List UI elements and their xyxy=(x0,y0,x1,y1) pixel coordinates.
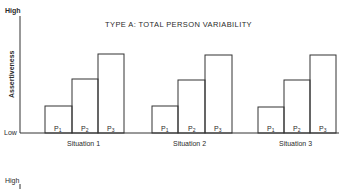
bar-label-s1-p3: P3 xyxy=(107,125,115,133)
bar-label-s1-p2: P2 xyxy=(81,125,89,133)
category-label-situation-2: Situation 2 xyxy=(173,140,206,147)
bar-s3-p3 xyxy=(310,55,336,133)
y-low-label: Low xyxy=(4,129,18,136)
bar-s1-p3 xyxy=(98,54,124,133)
y-axis-label: Assertiveness xyxy=(8,50,15,98)
bar-s2-p3 xyxy=(205,55,232,133)
bar-label-s3-p2: P2 xyxy=(293,125,301,133)
situation-1-group xyxy=(45,54,124,133)
chart: High Low Assertiveness TYPE A: TOTAL PER… xyxy=(0,0,339,189)
bar-label-s2-p2: P2 xyxy=(188,125,196,133)
bar-label-s1-p1: P1 xyxy=(54,125,62,133)
situation-3-group xyxy=(258,55,336,133)
chart-title: TYPE A: TOTAL PERSON VARIABILITY xyxy=(105,20,252,29)
situation-2-group xyxy=(152,55,232,133)
category-label-situation-1: Situation 1 xyxy=(67,140,100,147)
category-label-situation-3: Situation 3 xyxy=(279,140,312,147)
bar-label-s2-p1: P1 xyxy=(161,125,169,133)
bar-label-s3-p3: P3 xyxy=(319,125,327,133)
bar-label-s3-p1: P1 xyxy=(267,125,275,133)
bar-label-s2-p3: P3 xyxy=(214,125,222,133)
y-high-label: High xyxy=(5,7,21,15)
second-panel-y-high-label: High xyxy=(5,177,20,185)
